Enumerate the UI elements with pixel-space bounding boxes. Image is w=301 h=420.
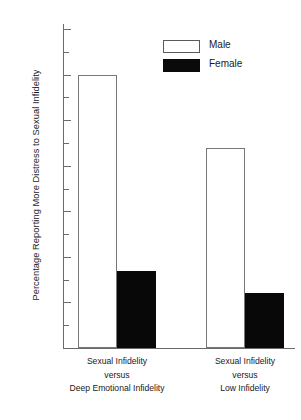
x-group-label-line: Low Infidelity [165,382,301,396]
bar-chart: Percentage Reporting More Distress to Se… [0,0,301,420]
y-tick-minor [64,143,69,144]
legend-label-male: Male [209,39,231,50]
y-tick-minor [64,52,69,53]
x-group-label-line: Sexual Infidelity [165,355,301,369]
legend-label-female: Female [209,58,242,69]
y-tick-minor [64,234,69,235]
bar-male-group1 [78,75,117,348]
bar-male-group2 [206,148,245,349]
y-tick-major [64,120,71,121]
y-tick-major [64,302,71,303]
y-tick-minor [64,189,69,190]
y-tick-minor [64,325,69,326]
y-tick-major [64,257,71,258]
y-tick-major [64,75,71,76]
y-tick-major [64,29,71,30]
x-group-label-2: Sexual InfidelityversusLow Infidelity [165,355,301,396]
y-axis-title: Percentage Reporting More Distress to Se… [31,30,41,340]
y-tick-major [64,166,71,167]
y-tick-major [64,211,71,212]
x-group-label-line: versus [165,369,301,383]
bar-female-group1 [117,271,156,348]
y-tick-minor [64,280,69,281]
legend-swatch-male-icon [163,40,200,53]
y-axis-line [63,24,64,349]
x-axis-line [63,348,295,349]
y-tick-minor [64,97,69,98]
bar-female-group2 [245,293,284,348]
plot-area: 010203040506070 [63,24,295,349]
y-tick-major [64,348,71,349]
legend-swatch-female-icon [163,59,200,72]
